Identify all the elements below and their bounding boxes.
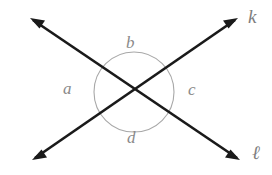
angle-label-a: a (63, 80, 72, 97)
angle-label-d: d (127, 129, 136, 146)
angle-arc-circle (94, 52, 174, 132)
angle-label-c: c (188, 81, 196, 98)
line-label-k: k (248, 7, 256, 26)
geometry-canvas (0, 0, 272, 175)
angle-label-b: b (126, 34, 135, 51)
geometry-figure: a b c d k ℓ (0, 0, 272, 175)
line-label-l: ℓ (252, 143, 260, 162)
